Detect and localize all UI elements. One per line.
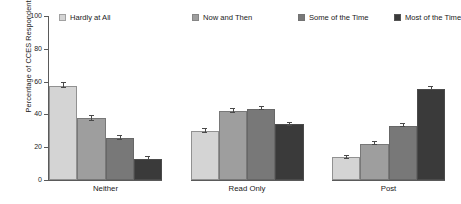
bar[interactable] (332, 157, 360, 180)
error-bar-cap (287, 125, 292, 126)
error-bar-cap (117, 139, 122, 140)
error-bar-cap (259, 109, 264, 110)
plot-area: NeitherRead OnlyPost (49, 16, 445, 180)
error-bar-cap (230, 108, 235, 109)
x-axis-category-label: Post (332, 184, 445, 193)
group-axis-line (191, 180, 304, 181)
error-bar-cap (145, 156, 150, 157)
x-axis-category-label: Read Only (191, 184, 304, 193)
error-bar-cap (202, 132, 207, 133)
y-tick-label: 80 (16, 45, 42, 52)
error-bar-cap (117, 135, 122, 136)
error-bar-cap (259, 106, 264, 107)
error-bar-cap (344, 155, 349, 156)
error-bar-cap (428, 89, 433, 90)
bar-group: Post (332, 16, 445, 180)
error-bar-cap (344, 158, 349, 159)
bar[interactable] (360, 144, 388, 180)
error-bar-cap (202, 128, 207, 129)
bar[interactable] (49, 86, 77, 180)
error-bar-cap (372, 144, 377, 145)
bar[interactable] (219, 111, 247, 180)
bar[interactable] (191, 131, 219, 180)
bar[interactable] (134, 159, 162, 180)
y-tick-label: 0 (16, 176, 42, 183)
bar[interactable] (106, 138, 134, 180)
bar[interactable] (389, 126, 417, 180)
x-axis-category-label: Neither (49, 184, 162, 193)
error-bar-cap (230, 112, 235, 113)
bar[interactable] (275, 124, 303, 180)
error-bar-cap (61, 82, 66, 83)
error-bar-cap (89, 115, 94, 116)
bar[interactable] (417, 89, 445, 180)
y-tick-label: 40 (16, 110, 42, 117)
group-axis-line (49, 180, 162, 181)
error-bar-cap (145, 159, 150, 160)
group-axis-line (332, 180, 445, 181)
bar[interactable] (247, 109, 275, 180)
bar-group: Neither (49, 16, 162, 180)
error-bar-cap (61, 87, 66, 88)
bar-group: Read Only (191, 16, 304, 180)
error-bar-cap (400, 126, 405, 127)
error-bar-cap (428, 86, 433, 87)
error-bar-cap (89, 120, 94, 121)
y-tick-label: 60 (16, 78, 42, 85)
y-tick-label: 100 (16, 12, 42, 19)
error-bar-cap (287, 122, 292, 123)
bar[interactable] (77, 118, 105, 180)
error-bar-cap (400, 123, 405, 124)
y-tick-label: 20 (16, 143, 42, 150)
error-bar-cap (372, 141, 377, 142)
